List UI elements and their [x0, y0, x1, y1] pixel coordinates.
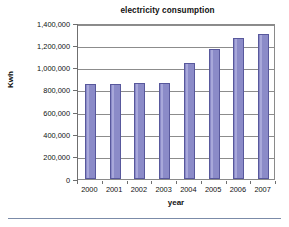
y-axis-tick [73, 135, 77, 136]
bar [134, 83, 145, 179]
bar-highlight [112, 85, 114, 178]
bottom-divider [8, 218, 281, 219]
y-axis-tick-label: 1,200,000 [0, 42, 70, 51]
gridline [78, 158, 274, 159]
x-axis-tick [102, 181, 103, 184]
gridline [78, 136, 274, 137]
y-axis-line [77, 24, 78, 181]
y-axis-tick-label: 200,000 [0, 153, 70, 162]
gridline [78, 47, 274, 48]
x-axis-tick [127, 181, 128, 184]
y-axis-tick [73, 46, 77, 47]
y-axis-tick-label: 600,000 [0, 109, 70, 118]
gridline [78, 25, 274, 26]
y-axis-tick-label: 800,000 [0, 86, 70, 95]
y-axis-tick [73, 68, 77, 69]
bar [233, 38, 244, 180]
y-axis-tick [73, 157, 77, 158]
y-axis-tick-label: 1,400,000 [0, 20, 70, 29]
y-axis-tick [73, 90, 77, 91]
y-axis-tick-label: 0 [0, 176, 70, 185]
chart-title: electricity consumption [60, 6, 275, 15]
x-axis-tick [176, 181, 177, 184]
bar [258, 34, 269, 179]
x-axis-tick [250, 181, 251, 184]
x-axis-tick [226, 181, 227, 184]
chart-container: electricity consumption Kwh 0200,000400,… [0, 0, 289, 227]
bar-highlight [186, 64, 188, 178]
bar-highlight [211, 50, 213, 178]
y-axis-tick-label: 1,000,000 [0, 64, 70, 73]
gridline [78, 91, 274, 92]
gridline [78, 114, 274, 115]
gridline [78, 69, 274, 70]
bar [184, 63, 195, 179]
y-axis-tick [73, 24, 77, 25]
bar [209, 49, 220, 179]
x-axis-title: year [77, 198, 275, 207]
plot-area [77, 24, 275, 180]
x-axis-tick [77, 181, 78, 184]
y-axis-tick-label: 400,000 [0, 131, 70, 140]
bar [159, 83, 170, 179]
bar-highlight [235, 39, 237, 179]
bar [110, 84, 121, 179]
bar-highlight [161, 84, 163, 178]
x-axis-tick [151, 181, 152, 184]
y-axis-tick [73, 113, 77, 114]
bar [85, 84, 96, 179]
bar-highlight [136, 84, 138, 178]
x-axis-tick-label: 2007 [246, 185, 280, 194]
x-axis-tick [275, 181, 276, 184]
bar-highlight [87, 85, 89, 178]
bar-highlight [260, 35, 262, 178]
x-axis-tick [201, 181, 202, 184]
